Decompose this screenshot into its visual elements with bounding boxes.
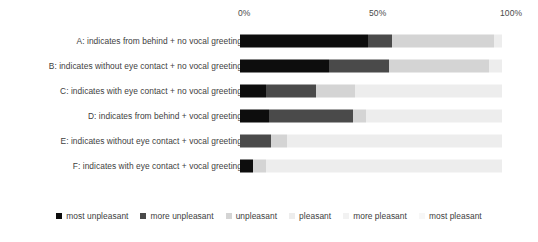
category-label: D: indicates from behind + vocal greetin… <box>88 111 242 121</box>
category-label: F: indicates with eye contact + vocal gr… <box>73 161 242 171</box>
stacked-bar-chart: 0%50%100% A: indicates from behind + no … <box>0 0 538 242</box>
x-axis-tick: 0% <box>238 8 251 18</box>
category-label: E: indicates without eye contact + vocal… <box>61 136 242 146</box>
stacked-bar <box>240 84 502 97</box>
legend-swatch-icon <box>289 213 295 219</box>
bar-segment <box>389 59 489 72</box>
bar-segment <box>269 109 353 122</box>
bar-row: A: indicates from behind + no vocal gree… <box>0 28 538 53</box>
bar-segment <box>240 84 266 97</box>
bar-row: B: indicates without eye contact + no vo… <box>0 53 538 78</box>
legend-item[interactable]: unpleasant <box>226 211 277 221</box>
legend-label: more pleasant <box>353 211 407 221</box>
bar-segment <box>271 134 287 147</box>
bar-segment <box>266 159 502 172</box>
stacked-bar <box>240 159 502 172</box>
bar-segment <box>240 59 329 72</box>
legend-item[interactable]: most unpleasant <box>56 211 128 221</box>
bar-segment <box>266 84 316 97</box>
bar-segment <box>494 34 502 47</box>
x-axis-tick: 50% <box>369 8 386 18</box>
legend-label: more unpleasant <box>150 211 213 221</box>
legend-item[interactable]: pleasant <box>289 211 331 221</box>
category-label: C: indicates with eye contact + no vocal… <box>60 86 242 96</box>
category-label: A: indicates from behind + no vocal gree… <box>77 36 242 46</box>
x-axis: 0%50%100% <box>0 8 538 24</box>
legend-item[interactable]: more pleasant <box>343 211 407 221</box>
legend-swatch-icon <box>56 213 62 219</box>
bar-segment <box>240 34 368 47</box>
legend-item[interactable]: more unpleasant <box>140 211 213 221</box>
legend-label: most unpleasant <box>66 211 128 221</box>
plot-area: A: indicates from behind + no vocal gree… <box>0 28 538 198</box>
bar-row: E: indicates without eye contact + vocal… <box>0 128 538 153</box>
legend-label: unpleasant <box>236 211 277 221</box>
bar-segment <box>366 109 502 122</box>
legend-label: most pleasant <box>429 211 482 221</box>
bar-segment <box>329 59 389 72</box>
chart-legend: most unpleasantmore unpleasantunpleasant… <box>0 206 538 226</box>
legend-label: pleasant <box>299 211 331 221</box>
bar-segment <box>240 109 269 122</box>
legend-swatch-icon <box>419 213 425 219</box>
legend-swatch-icon <box>140 213 146 219</box>
bar-segment <box>240 134 271 147</box>
bar-segment <box>287 134 502 147</box>
stacked-bar <box>240 59 502 72</box>
bar-segment <box>392 34 494 47</box>
x-axis-tick: 100% <box>500 8 522 18</box>
stacked-bar <box>240 134 502 147</box>
stacked-bar <box>240 34 502 47</box>
legend-item[interactable]: most pleasant <box>419 211 482 221</box>
stacked-bar <box>240 109 502 122</box>
bar-row: F: indicates with eye contact + vocal gr… <box>0 153 538 178</box>
legend-swatch-icon <box>226 213 232 219</box>
bar-segment <box>316 84 355 97</box>
category-label: B: indicates without eye contact + no vo… <box>49 61 242 71</box>
bar-segment <box>355 84 502 97</box>
bar-segment <box>353 109 366 122</box>
legend-swatch-icon <box>343 213 349 219</box>
bar-segment <box>240 159 253 172</box>
bar-row: D: indicates from behind + vocal greetin… <box>0 103 538 128</box>
bar-segment <box>368 34 392 47</box>
bar-row: C: indicates with eye contact + no vocal… <box>0 78 538 103</box>
bar-segment <box>253 159 266 172</box>
bar-segment <box>489 59 502 72</box>
